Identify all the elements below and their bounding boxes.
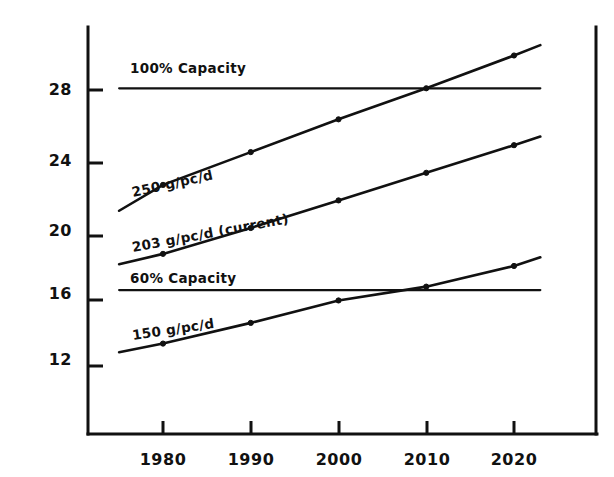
x-tick-label-1980: 1980: [140, 450, 187, 469]
series-label-203: 203 g/pc/d (current): [131, 210, 290, 255]
data-point-marker: [511, 143, 516, 148]
x-tick-label-2010: 2010: [404, 450, 451, 469]
y-axis-tick-labels: 28 24 20 16 12: [49, 80, 72, 369]
data-point-marker: [336, 117, 341, 122]
y-tick-label-20: 20: [49, 221, 72, 240]
data-point-marker: [511, 53, 516, 58]
y-tick-label-24: 24: [49, 151, 72, 170]
x-axis-tick-labels: 1980 1990 2000 2010 2020: [140, 450, 538, 469]
data-point-marker: [424, 284, 429, 289]
line-chart: 28 24 20 16 12 1980 1990 2000 2010 2020 …: [0, 0, 614, 477]
data-point-marker: [424, 170, 429, 175]
y-axis-ticks: [88, 90, 103, 366]
series-label-250: 250 g/pc/d: [130, 166, 214, 200]
x-tick-label-2020: 2020: [491, 450, 538, 469]
series-annotations: 100% Capacity 250 g/pc/d 203 g/pc/d (cur…: [130, 60, 290, 343]
series-label-150: 150 g/pc/d: [131, 315, 215, 343]
chart-series-layer: [119, 45, 540, 352]
data-point-marker: [248, 150, 253, 155]
data-point-marker: [160, 341, 165, 346]
series-label-100-capacity: 100% Capacity: [130, 60, 246, 76]
data-point-marker: [248, 320, 253, 325]
y-tick-label-12: 12: [49, 350, 72, 369]
series-label-60-capacity: 60% Capacity: [130, 270, 236, 286]
x-axis-ticks: [163, 421, 514, 434]
data-point-marker: [424, 86, 429, 91]
x-tick-label-2000: 2000: [316, 450, 363, 469]
data-point-marker: [160, 251, 165, 256]
y-tick-label-28: 28: [49, 80, 72, 99]
data-point-marker: [336, 298, 341, 303]
data-point-marker: [511, 263, 516, 268]
x-tick-label-1990: 1990: [228, 450, 275, 469]
data-point-marker: [336, 198, 341, 203]
y-tick-label-16: 16: [49, 284, 72, 303]
